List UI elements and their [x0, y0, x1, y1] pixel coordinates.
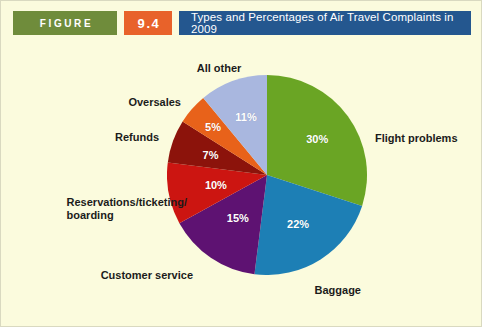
pie-svg — [167, 75, 367, 275]
slice-value-customer-service: 15% — [227, 212, 249, 224]
slice-value-reservations-ticketing-boarding: 10% — [205, 179, 227, 191]
category-label-baggage: Baggage — [315, 284, 361, 297]
figure-label: FIGURE — [13, 11, 117, 35]
label-line: Oversales — [128, 96, 181, 109]
category-label-oversales: Oversales — [128, 96, 181, 109]
label-line: Refunds — [115, 131, 159, 144]
label-line: Reservations/ticketing/ — [67, 196, 187, 209]
slice-value-oversales: 5% — [205, 121, 221, 133]
slice-value-all-other: 11% — [235, 111, 256, 123]
pie-chart: 30%22%15%10%7%5%11% Flight problems Bagg… — [1, 41, 482, 327]
slice-value-baggage: 22% — [287, 218, 309, 230]
category-label-all-other: All other — [197, 62, 242, 75]
category-label-flight-problems: Flight problems — [375, 132, 458, 145]
label-line: Baggage — [315, 284, 361, 297]
figure-page: FIGURE 9.4 Types and Percentages of Air … — [0, 0, 482, 327]
figure-header: FIGURE 9.4 Types and Percentages of Air … — [13, 11, 471, 35]
category-label-customer-service: Customer service — [101, 269, 193, 282]
slice-value-flight-problems: 30% — [306, 133, 328, 145]
category-label-refunds: Refunds — [115, 131, 159, 144]
figure-number: 9.4 — [124, 11, 172, 35]
header-divider — [117, 11, 124, 35]
pie-graphic: 30%22%15%10%7%5%11% — [167, 75, 367, 275]
figure-title: Types and Percentages of Air Travel Comp… — [179, 11, 471, 35]
label-line: Customer service — [101, 269, 193, 282]
header-divider-2 — [172, 11, 179, 35]
label-line: boarding — [67, 209, 187, 222]
category-label-reservations-ticketing-boarding: Reservations/ticketing/ boarding — [67, 196, 187, 223]
slice-value-refunds: 7% — [203, 149, 219, 161]
label-line: All other — [197, 62, 242, 75]
label-line: Flight problems — [375, 132, 458, 145]
